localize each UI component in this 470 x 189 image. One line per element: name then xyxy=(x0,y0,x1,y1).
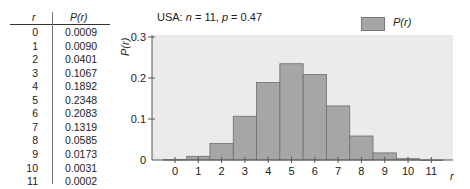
y-tick-label: 0 xyxy=(140,154,146,166)
y-tick-label: 0.2 xyxy=(131,72,146,84)
bar xyxy=(257,82,280,160)
bar xyxy=(280,64,303,160)
bar xyxy=(350,136,373,160)
x-tick-label: 3 xyxy=(242,165,248,177)
x-tick-label: 9 xyxy=(382,165,388,177)
x-tick-label: 2 xyxy=(219,165,225,177)
x-tick-label: 7 xyxy=(335,165,341,177)
bar xyxy=(233,116,256,160)
x-axis-label: r xyxy=(450,170,455,182)
bar xyxy=(303,75,326,160)
x-tick-label: 5 xyxy=(288,165,294,177)
x-tick-label: 6 xyxy=(312,165,318,177)
y-tick-label: 0.3 xyxy=(131,31,146,43)
x-tick-label: 1 xyxy=(195,165,201,177)
y-axis-label: P(r) xyxy=(119,37,131,56)
bar xyxy=(326,106,349,160)
x-tick-label: 0 xyxy=(172,165,178,177)
x-tick-label: 11 xyxy=(426,165,437,177)
x-tick-label: 8 xyxy=(358,165,364,177)
x-tick-label: 10 xyxy=(402,165,414,177)
x-tick-label: 4 xyxy=(265,165,271,177)
bar-chart: 00.10.20.301234567891011rP(r) xyxy=(0,0,470,189)
y-tick-label: 0.1 xyxy=(131,113,146,125)
